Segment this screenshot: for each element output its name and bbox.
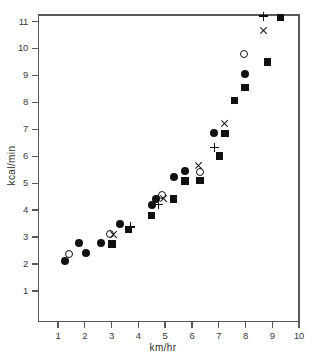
y-axis-title: kcal/min — [6, 126, 17, 206]
x-axis-tick-label: 5 — [154, 331, 176, 341]
y-axis-tick-label: 10 — [6, 43, 28, 53]
x-axis-tick-label: 3 — [101, 331, 123, 341]
y-axis-tick — [32, 183, 38, 184]
x-axis-tick-label: 7 — [208, 331, 230, 341]
x-axis-tick — [84, 322, 85, 328]
x-axis-title: km/hr — [118, 342, 208, 353]
x-axis-tick — [111, 322, 112, 328]
x-axis-tick-label: 2 — [74, 331, 96, 341]
x-axis-tick — [164, 322, 165, 328]
x-axis-tick — [272, 322, 273, 328]
y-axis-tick — [32, 236, 38, 237]
plot-area — [38, 14, 300, 322]
x-axis-tick — [191, 322, 192, 328]
y-axis-tick — [32, 209, 38, 210]
y-axis-tick — [32, 102, 38, 103]
x-axis-tick-label: 4 — [127, 331, 149, 341]
y-axis-tick-label: 11 — [6, 17, 28, 27]
y-axis-tick — [32, 290, 38, 291]
y-axis-tick — [32, 129, 38, 130]
y-axis-tick — [32, 75, 38, 76]
y-axis-tick-label: 8 — [6, 97, 28, 107]
x-axis-tick-label: 1 — [47, 331, 69, 341]
plot-frame-right-rule — [298, 14, 300, 322]
x-axis-tick — [57, 322, 58, 328]
y-axis-tick-label: 9 — [6, 70, 28, 80]
y-axis-tick-label: 3 — [6, 232, 28, 242]
y-axis-tick-label: 4 — [6, 205, 28, 215]
x-axis-tick — [218, 322, 219, 328]
x-axis-tick-label: 9 — [261, 331, 283, 341]
plot-frame-top-rule — [38, 14, 300, 16]
y-axis-tick — [32, 156, 38, 157]
x-axis-tick-label: 10 — [288, 331, 310, 341]
x-axis-tick-label: 8 — [234, 331, 256, 341]
x-axis-tick — [298, 322, 299, 328]
y-axis-tick-label: 2 — [6, 259, 28, 269]
y-axis-tick-label: 1 — [6, 286, 28, 296]
y-axis-tick — [32, 48, 38, 49]
y-axis-tick — [32, 263, 38, 264]
scatter-plot-figure: 1234567891011 12345678910 kcal/min km/hr — [0, 0, 317, 355]
x-axis-tick — [138, 322, 139, 328]
x-axis-tick-label: 6 — [181, 331, 203, 341]
x-axis-tick — [245, 322, 246, 328]
y-axis-tick — [32, 21, 38, 22]
